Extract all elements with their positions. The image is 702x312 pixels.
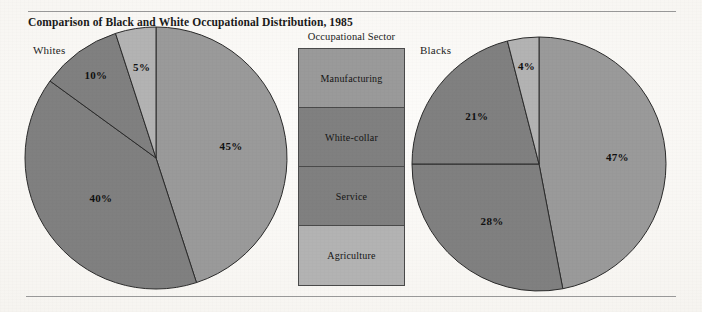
legend-item-agriculture[interactable]: Agriculture [299, 226, 404, 285]
legend-item-manufacturing[interactable]: Manufacturing [299, 49, 404, 108]
pie-slice-value-label: 28% [481, 215, 504, 227]
legend-item-label: Manufacturing [320, 73, 382, 84]
legend-item-label: Service [336, 191, 367, 202]
pie-blacks-slices [412, 37, 666, 291]
pie-slice-value-label: 40% [89, 192, 112, 204]
legend-item-white-collar[interactable]: White-collar [299, 108, 404, 167]
pie-slice[interactable] [412, 164, 563, 291]
pie-slice-value-label: 4% [518, 60, 535, 72]
pie-chart-whites: 45%40%10%5% [22, 24, 290, 292]
pie-slice-value-label: 5% [133, 61, 150, 73]
pie-slice-value-label: 10% [84, 69, 107, 81]
pie-slice-value-label: 47% [606, 151, 629, 163]
legend-title: Occupational Sector [298, 31, 405, 42]
pie-slice-value-label: 21% [465, 110, 488, 122]
pie-slice-value-label: 45% [220, 140, 243, 152]
pie-chart-blacks: 47%28%21%4% [409, 34, 669, 294]
top-divider-rule [28, 11, 676, 12]
pie-slice[interactable] [539, 37, 666, 289]
legend-item-service[interactable]: Service [299, 167, 404, 226]
legend-item-label: Agriculture [327, 250, 375, 261]
legend-box: Manufacturing White-collar Service Agric… [298, 48, 405, 286]
bottom-divider-rule [26, 296, 676, 297]
pie-whites-slices [25, 27, 287, 289]
legend-item-label: White-collar [325, 132, 378, 143]
